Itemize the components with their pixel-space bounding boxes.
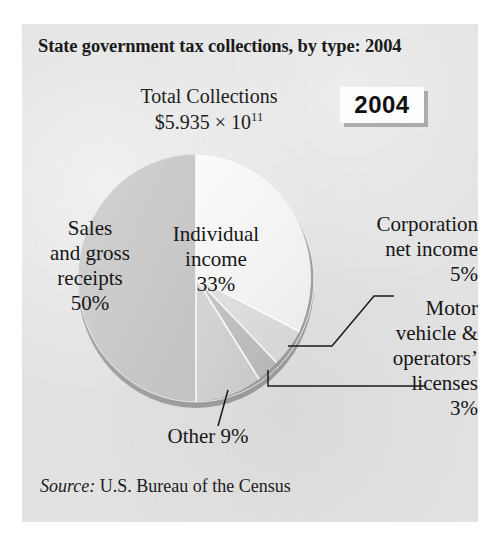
pie-label-sales-and-gross-receipts: Sales and gross receipts 50%	[28, 216, 152, 316]
pie-label-other-text: Other 9%	[118, 424, 298, 449]
source-text: U.S. Bureau of the Census	[100, 476, 291, 496]
pie-label-motor-line4: licenses	[322, 371, 478, 396]
pie-label-individual-line2: income	[156, 247, 276, 272]
pie-label-corporation-percent: 5%	[300, 262, 478, 287]
total-collections-mantissa: $5.935 × 10	[155, 111, 251, 133]
year-badge: 2004	[340, 87, 424, 123]
pie-label-individual-percent: 33%	[156, 272, 276, 297]
year-badge-wrapper: 2004	[340, 87, 424, 123]
pie-label-motor-line3: operators’	[322, 346, 478, 371]
pie-label-corporation-line1: Corporation	[300, 212, 478, 237]
source-label: Source:	[40, 476, 95, 496]
total-collections-value: $5.935 × 1011	[94, 109, 324, 135]
pie-label-individual-income: Individual income 33%	[156, 222, 276, 297]
leader-line-other	[218, 390, 228, 426]
year-badge-label: 2004	[354, 91, 409, 119]
pie-label-motor-line1: Motor	[322, 296, 478, 321]
pie-label-sales-line2: and gross	[28, 241, 152, 266]
total-collections-block: Total Collections $5.935 × 1011	[94, 84, 324, 135]
pie-label-other: Other 9%	[118, 424, 298, 449]
figure-panel: State government tax collections, by typ…	[22, 24, 478, 522]
pie-label-sales-percent: 50%	[28, 291, 152, 316]
pie-label-motor-vehicle-licenses: Motor vehicle & operators’ licenses 3%	[322, 296, 478, 421]
total-collections-exponent: 11	[251, 110, 263, 124]
pie-label-sales-line1: Sales	[28, 216, 152, 241]
pie-label-motor-percent: 3%	[322, 396, 478, 421]
source-line: Source: U.S. Bureau of the Census	[40, 476, 291, 497]
pie-label-motor-line2: vehicle &	[322, 321, 478, 346]
pie-label-individual-line1: Individual	[156, 222, 276, 247]
pie-label-corporation-line2: net income	[300, 237, 478, 262]
total-collections-label: Total Collections	[94, 84, 324, 109]
chart-title: State government tax collections, by typ…	[38, 36, 468, 57]
pie-label-sales-line3: receipts	[28, 266, 152, 291]
pie-label-corporation-net-income: Corporation net income 5%	[300, 212, 478, 287]
